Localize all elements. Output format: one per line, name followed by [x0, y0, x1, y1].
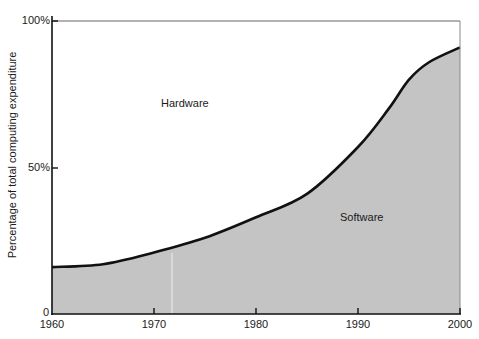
x-tick-label-1970: 1970 — [134, 318, 174, 330]
x-tick-label-1980: 1980 — [236, 318, 276, 330]
software-area — [52, 47, 460, 314]
software-label: Software — [340, 211, 383, 223]
y-tick-label-100: 100% — [10, 14, 50, 26]
x-tick-label-1960: 1960 — [32, 318, 72, 330]
y-tick-label-50: 50% — [10, 161, 50, 173]
x-tick-label-1990: 1990 — [338, 318, 378, 330]
hardware-label: Hardware — [161, 97, 209, 109]
y-tick-label-0: 0 — [9, 306, 49, 318]
y-axis-label: Percentage of total computing expenditur… — [6, 50, 20, 260]
x-tick-label-2000: 2000 — [440, 318, 479, 330]
chart-canvas — [0, 0, 479, 339]
